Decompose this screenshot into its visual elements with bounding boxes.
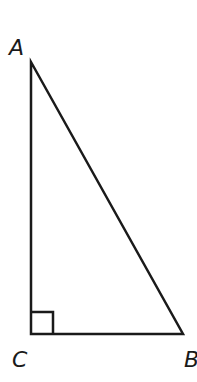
vertex-label-b: B	[184, 347, 197, 372]
vertex-label-a: A	[7, 35, 24, 60]
triangle-abc	[31, 62, 183, 334]
right-angle-marker	[31, 312, 53, 334]
triangle-diagram: A C B	[0, 0, 197, 382]
vertex-label-c: C	[12, 347, 28, 372]
